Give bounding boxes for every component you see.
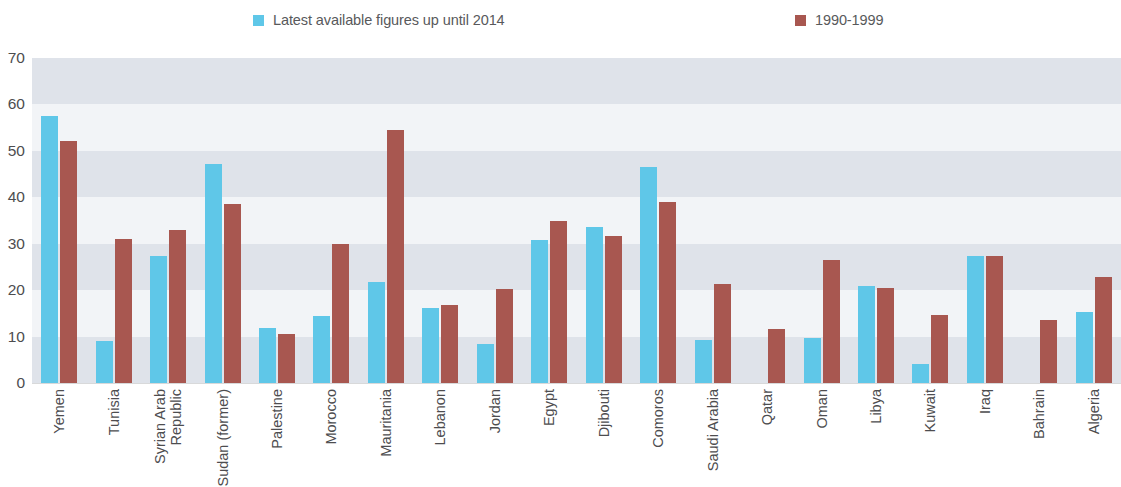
bar bbox=[115, 239, 132, 383]
chart-legend: Latest available figures up until 2014 1… bbox=[0, 0, 1121, 46]
x-axis-tick: Morocco bbox=[304, 385, 358, 481]
x-axis-baseline bbox=[32, 383, 1121, 384]
bar bbox=[259, 328, 276, 383]
x-axis-label-line: Saudi Arabia bbox=[705, 389, 721, 471]
x-axis-label: Iraq bbox=[977, 389, 993, 414]
bar bbox=[640, 167, 657, 383]
bar bbox=[477, 344, 494, 383]
x-axis-label-line: Bahrain bbox=[1031, 389, 1047, 439]
bar bbox=[695, 340, 712, 383]
x-axis-label: Tunisia bbox=[106, 389, 122, 435]
bar bbox=[605, 236, 622, 383]
bar bbox=[659, 202, 676, 383]
bar-group bbox=[522, 58, 576, 383]
x-axis-tick: Oman bbox=[794, 385, 848, 481]
x-axis-tick: Tunisia bbox=[86, 385, 140, 481]
bar-groups bbox=[32, 58, 1121, 383]
bar bbox=[41, 116, 58, 383]
bar bbox=[967, 256, 984, 383]
x-axis-label-line: Mauritania bbox=[378, 389, 394, 457]
x-axis-label: Oman bbox=[813, 389, 829, 429]
bar-group bbox=[304, 58, 358, 383]
x-axis-tick: Mauritania bbox=[359, 385, 413, 481]
x-axis-label: Sudan (former) bbox=[214, 389, 230, 487]
x-axis-label: Kuwait bbox=[922, 389, 938, 433]
legend-swatch-red-icon bbox=[795, 15, 806, 26]
x-axis-tick: Sudan (former) bbox=[195, 385, 249, 481]
x-axis-label: Lebanon bbox=[432, 389, 448, 445]
x-axis-label: Djibouti bbox=[596, 389, 612, 437]
x-axis-label: Mauritania bbox=[378, 389, 394, 457]
x-axis-label: Egypt bbox=[541, 389, 557, 426]
bar-group bbox=[468, 58, 522, 383]
y-axis-tick-30: 30 bbox=[8, 236, 25, 252]
bar bbox=[441, 305, 458, 383]
plot-area bbox=[32, 58, 1121, 383]
bar bbox=[531, 240, 548, 383]
bar bbox=[586, 227, 603, 383]
x-axis-label-line: Palestine bbox=[269, 389, 285, 449]
bar-group bbox=[849, 58, 903, 383]
x-axis-label: Qatar bbox=[759, 389, 775, 425]
bar bbox=[169, 230, 186, 383]
x-axis-label: Jordan bbox=[487, 389, 503, 433]
bar-group bbox=[794, 58, 848, 383]
x-axis-tick: Lebanon bbox=[413, 385, 467, 481]
x-axis-label-line: Morocco bbox=[323, 389, 339, 445]
bar bbox=[804, 338, 821, 384]
bar-group bbox=[1067, 58, 1121, 383]
legend-label-1990-1999: 1990-1999 bbox=[815, 12, 883, 28]
bar-chart: 706050403020100 YemenTunisiaSyrian ArabR… bbox=[0, 46, 1121, 481]
x-axis-label-line: Lebanon bbox=[432, 389, 448, 445]
bar bbox=[332, 244, 349, 383]
x-axis-label: Saudi Arabia bbox=[705, 389, 721, 471]
y-axis-tick-70: 70 bbox=[8, 50, 25, 66]
bar-group bbox=[740, 58, 794, 383]
x-axis-tick: Djibouti bbox=[577, 385, 631, 481]
x-axis-label: Bahrain bbox=[1031, 389, 1047, 439]
bar-group bbox=[413, 58, 467, 383]
x-axis-tick: Yemen bbox=[32, 385, 86, 481]
bar bbox=[96, 341, 113, 383]
x-axis-label-line: Yemen bbox=[51, 389, 67, 434]
bar bbox=[278, 334, 295, 383]
x-axis-label-line: Oman bbox=[813, 389, 829, 429]
bar-group bbox=[250, 58, 304, 383]
x-axis-tick: Syrian ArabRepublic bbox=[141, 385, 195, 481]
bar bbox=[986, 256, 1003, 383]
bar-group bbox=[903, 58, 957, 383]
x-axis-label-line: Sudan (former) bbox=[214, 389, 230, 487]
x-axis-tick: Saudi Arabia bbox=[685, 385, 739, 481]
bar-group bbox=[86, 58, 140, 383]
x-axis-label-line: Comoros bbox=[650, 389, 666, 448]
x-axis: YemenTunisiaSyrian ArabRepublicSudan (fo… bbox=[32, 385, 1121, 481]
bar bbox=[912, 364, 929, 383]
x-axis-label: Comoros bbox=[650, 389, 666, 448]
bar-group bbox=[631, 58, 685, 383]
bar bbox=[387, 130, 404, 383]
bar bbox=[858, 286, 875, 383]
bar bbox=[60, 141, 77, 383]
x-axis-label-line: Egypt bbox=[541, 389, 557, 426]
legend-label-latest-figures: Latest available figures up until 2014 bbox=[273, 12, 505, 28]
y-axis-tick-50: 50 bbox=[8, 143, 25, 159]
x-axis-tick: Algeria bbox=[1067, 385, 1121, 481]
x-axis-label-line: Republic bbox=[168, 389, 184, 464]
bar bbox=[224, 204, 241, 383]
x-axis-tick: Iraq bbox=[958, 385, 1012, 481]
bar-group bbox=[32, 58, 86, 383]
x-axis-label: Algeria bbox=[1086, 389, 1102, 434]
x-axis-tick: Bahrain bbox=[1012, 385, 1066, 481]
bar-group bbox=[141, 58, 195, 383]
bar bbox=[823, 260, 840, 383]
bar bbox=[205, 164, 222, 383]
x-axis-tick: Palestine bbox=[250, 385, 304, 481]
y-axis-tick-60: 60 bbox=[8, 97, 25, 113]
bar bbox=[1076, 312, 1093, 383]
y-axis-tick-20: 20 bbox=[8, 282, 25, 298]
x-axis-tick: Kuwait bbox=[903, 385, 957, 481]
bar bbox=[931, 315, 948, 383]
x-axis-tick: Qatar bbox=[740, 385, 794, 481]
bar-group bbox=[195, 58, 249, 383]
bar bbox=[1095, 277, 1112, 383]
